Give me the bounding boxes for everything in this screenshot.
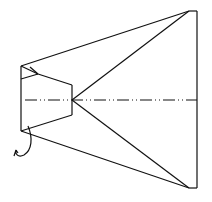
bottom-outer-edge xyxy=(21,131,189,188)
top-outer-edge xyxy=(21,11,189,66)
inner-top-edge xyxy=(38,74,72,85)
horn-drawing xyxy=(0,0,212,202)
diagram-canvas xyxy=(0,0,212,202)
